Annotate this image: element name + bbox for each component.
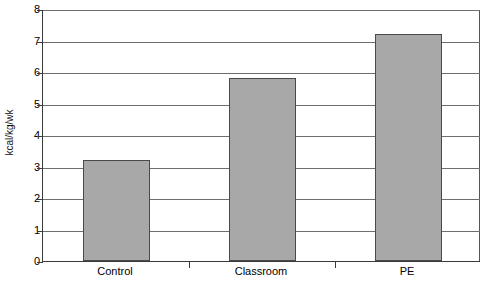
bar	[375, 34, 442, 261]
gridline	[43, 10, 480, 11]
x-axis-category-labels: ControlClassroomPE	[42, 264, 480, 284]
x-axis-category-label: PE	[334, 264, 480, 278]
bar-chart: kcal/kg/wk 012345678 ControlClassroomPE	[0, 0, 498, 287]
y-axis-tick-labels: 012345678	[22, 0, 40, 287]
y-axis-title-text: kcal/kg/wk	[4, 109, 15, 155]
y-axis-tick-mark	[37, 262, 43, 263]
plot-area	[42, 10, 480, 262]
y-axis-title: kcal/kg/wk	[2, 92, 16, 172]
x-axis-category-label: Classroom	[188, 264, 334, 278]
x-axis-category-label: Control	[42, 264, 188, 278]
bar	[229, 78, 296, 261]
bar	[83, 160, 150, 261]
